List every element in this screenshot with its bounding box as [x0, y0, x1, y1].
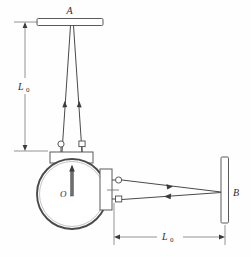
horizontal-dimension-L0: L 0 — [114, 203, 225, 245]
plate-b-label: B — [233, 187, 239, 198]
vertical-dimension-L0: L 0 — [13, 22, 48, 151]
string-arrow-left-icon — [62, 101, 67, 108]
torsion-pendulum-figure: A L 0 — [0, 0, 251, 257]
vertical-L-label: L — [17, 81, 24, 92]
ray-arrow-left-icon — [164, 194, 171, 200]
horizontal-L-label: L — [161, 231, 168, 242]
center-O-label: O — [60, 189, 67, 199]
plate-a-label: A — [65, 5, 73, 16]
suspension-strings — [62, 26, 82, 153]
vertical-L-subscript: 0 — [26, 86, 30, 94]
vertical-plate-B — [221, 157, 229, 223]
string-arrow-right-icon — [77, 101, 82, 108]
horizontal-L-subscript: 0 — [170, 236, 174, 244]
dimension-arrow-left — [114, 235, 120, 240]
dimension-arrow-down — [23, 145, 28, 151]
light-rays — [122, 180, 221, 200]
dimension-arrow-up — [23, 22, 28, 28]
horizontal-plate-A — [37, 19, 103, 26]
ray-arrow-right-icon — [166, 184, 173, 190]
physics-diagram-canvas: A L 0 — [0, 0, 251, 257]
dimension-arrow-right — [219, 235, 225, 240]
drum-right-bracket — [100, 169, 122, 210]
